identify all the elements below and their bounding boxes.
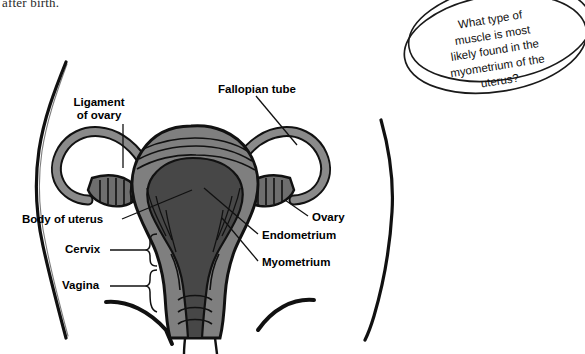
diagram-page: after birth.: [0, 0, 568, 354]
